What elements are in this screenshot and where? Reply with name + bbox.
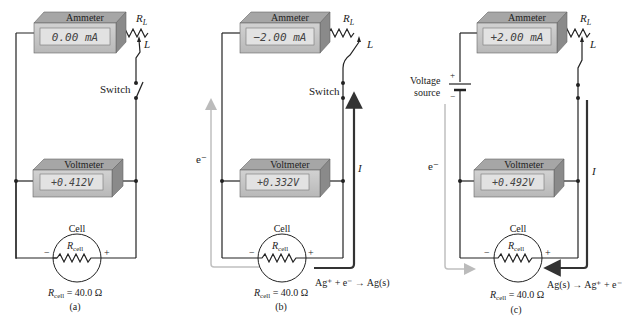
svg-text:−: − [450, 91, 455, 101]
cell: Cell Rcell − + Rcell = 40.0 Ω (b) [249, 223, 314, 313]
svg-text:RL: RL [342, 12, 355, 27]
svg-text:+: + [545, 247, 551, 258]
switch-contact [134, 81, 138, 85]
svg-text:Switch: Switch [309, 85, 340, 97]
svg-text:e⁻: e⁻ [428, 160, 439, 172]
svg-text:Rcell = 40.0 Ω: Rcell = 40.0 Ω [253, 287, 308, 300]
svg-text:+: + [450, 70, 455, 80]
panel-a: Switch RL L Ammeter 0.00 mA Voltmeter +0… [14, 12, 150, 325]
ammeter-reading: 0.00 mA [52, 31, 98, 44]
svg-text:Cell: Cell [510, 223, 527, 234]
svg-text:+: + [104, 247, 110, 258]
ammeter: Ammeter 0.00 mA [34, 12, 126, 53]
reaction-c: Ag(s) → Ag⁺ + e⁻ [547, 279, 622, 291]
svg-text:−: − [249, 247, 255, 258]
svg-text:Voltmeter: Voltmeter [64, 159, 104, 170]
voltmeter-reading: +0.332V [257, 177, 300, 188]
switch-label: Switch [100, 83, 131, 95]
cell: Cell Rcell − + Rcell = 40.0 Ω (c) [484, 223, 551, 316]
svg-text:Cell: Cell [69, 223, 86, 234]
svg-text:−: − [44, 247, 50, 258]
ammeter-reading: +2.00 mA [491, 31, 544, 44]
svg-text:Voltmeter: Voltmeter [504, 159, 544, 170]
panel-c: + − Voltage source RL L Ammeter +2.00 mA [410, 12, 622, 316]
electron-flow-arrow [445, 104, 470, 269]
ammeter-reading: −2.00 mA [254, 31, 307, 44]
svg-text:e⁻: e⁻ [196, 153, 207, 165]
svg-text:RL: RL [579, 12, 592, 27]
svg-text:Rcell: Rcell [66, 240, 83, 253]
caption-c: (c) [510, 304, 521, 316]
panel-b: Switch RL L Ammeter −2.00 mA Voltmeter +… [196, 12, 390, 313]
caption-b: (b) [275, 301, 287, 313]
ammeter: Ammeter −2.00 mA [240, 12, 330, 53]
voltmeter: Voltmeter +0.332V [240, 159, 330, 197]
cell: Cell Rcell − + Rcell = 40.0 Ω (a) [44, 223, 110, 313]
svg-text:RL: RL [135, 12, 148, 27]
svg-text:I: I [357, 162, 363, 174]
svg-text:Rcell = 40.0 Ω: Rcell = 40.0 Ω [47, 287, 102, 300]
electrochemical-cell-diagram: Switch RL L Ammeter 0.00 mA Voltmeter +0… [0, 0, 641, 325]
svg-text:Ammeter: Ammeter [508, 12, 546, 23]
svg-text:Ammeter: Ammeter [66, 12, 104, 23]
voltmeter-reading: +0.492V [492, 177, 535, 188]
svg-text:Rcell = 40.0 Ω: Rcell = 40.0 Ω [489, 289, 544, 302]
voltmeter-reading: +0.412V [51, 177, 94, 188]
voltmeter: Voltmeter +0.492V [474, 159, 564, 197]
svg-text:L: L [589, 38, 596, 50]
svg-text:source: source [414, 87, 441, 98]
svg-text:L: L [366, 38, 373, 50]
voltage-source-label: Voltage [410, 75, 441, 86]
svg-text:Voltmeter: Voltmeter [270, 159, 310, 170]
reaction-b: Ag⁺ + e⁻ → Ag(s) [315, 277, 390, 289]
voltmeter: Voltmeter +0.412V [33, 159, 123, 197]
ammeter: Ammeter +2.00 mA [477, 12, 567, 53]
svg-text:−: − [484, 247, 490, 258]
svg-text:Ammeter: Ammeter [271, 12, 309, 23]
svg-text:I: I [591, 165, 597, 177]
svg-text:L: L [143, 38, 150, 50]
svg-text:Cell: Cell [274, 223, 291, 234]
svg-text:+: + [308, 247, 314, 258]
caption-a: (a) [69, 301, 80, 313]
